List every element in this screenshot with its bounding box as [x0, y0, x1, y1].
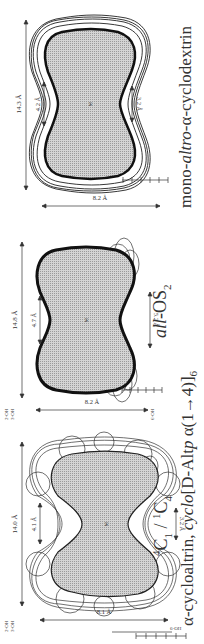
oh-label-3: 3-OH: [10, 408, 15, 420]
height-label: 8.1 Å: [97, 608, 112, 615]
inner-bottom-label: 3.2 Å: [136, 97, 143, 112]
width-label: 14.0 Å: [11, 514, 19, 533]
height-label: 8.2 Å: [85, 398, 100, 405]
center-label: M: [104, 521, 109, 526]
center-label: M: [88, 101, 93, 106]
inner-top-label: 4.2 Å: [34, 96, 41, 111]
center-label: M: [84, 317, 89, 322]
figure-stage: 14.0 Å 4.1 Å 3.2 Å 8.1 Å M 2-OH 3-OH 6-O…: [0, 0, 204, 644]
conformation-label-2: all-OS2: [150, 284, 173, 338]
scale-bar-3: [118, 170, 170, 190]
inner-top-label: 4.7 Å: [30, 312, 37, 327]
compound-caption-3: mono-altro-α-cyclodextrin: [176, 26, 196, 208]
width-label: 14.8 Å: [11, 310, 19, 329]
height-label: 8.2 Å: [93, 194, 108, 201]
oh-label-2: 2-OH: [4, 620, 9, 632]
panel-mono-altro-alpha-cyclodextrin: 14.3 Å 4.2 Å 3.2 Å 8.2 Å M mono-altro-α-…: [0, 0, 204, 220]
oh-label-3: 3-OH: [10, 620, 15, 632]
panel-alpha-cycloaltrin: 14.0 Å 4.1 Å 3.2 Å 8.1 Å M 2-OH 3-OH 6-O…: [0, 420, 204, 644]
panel-all-OS2: 14.8 Å 4.7 Å 5.2 Å 8.2 Å M 2-OH 3-OH 6-O…: [0, 220, 204, 420]
inner-top-label: 4.1 Å: [30, 516, 37, 531]
conformation-label-1: 4C1 / 1C4: [150, 496, 174, 556]
oh-label-6: 6-OH: [150, 408, 155, 420]
width-label: 14.3 Å: [15, 94, 23, 113]
scale-bar-2: [118, 380, 164, 400]
oh-label-2: 2-OH: [4, 408, 9, 420]
